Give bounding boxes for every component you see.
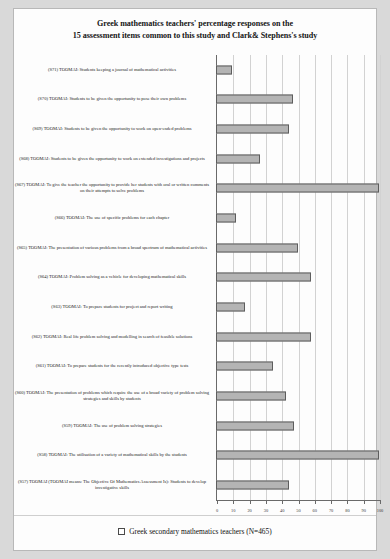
x-axis-tick <box>266 500 267 504</box>
bar <box>216 451 379 460</box>
x-axis-tick-label: 10 <box>231 508 235 513</box>
bar-cell <box>214 352 378 382</box>
bar-row: (S60) TOOMAI: The presentation of proble… <box>14 381 378 411</box>
bar-row: (S69) TOOMAI: Students to be given the o… <box>14 114 378 144</box>
bar <box>216 273 311 282</box>
x-axis-tick <box>364 500 365 504</box>
bar-cell <box>214 263 378 293</box>
bar <box>216 243 298 252</box>
category-label: (S66) TOOMAI: The use of specific proble… <box>14 215 214 222</box>
category-label: (S60) TOOMAI: The presentation of proble… <box>14 390 214 403</box>
legend-label: Greek secondary mathematics teachers (N=… <box>129 527 271 536</box>
x-axis-tick-label: 100 <box>377 508 384 513</box>
x-axis-tick-label: 0 <box>216 508 218 513</box>
bar-cell <box>214 233 378 263</box>
bar-row: (S63) TOOMAI: To prepare students for pr… <box>14 292 378 322</box>
x-axis-tick <box>380 500 381 504</box>
category-label: (S59) TOOMAI: The use of problem solving… <box>14 423 214 430</box>
bar <box>216 184 379 193</box>
category-label: (S61) TOOMAI: To prepare students for th… <box>14 363 214 370</box>
x-axis-tick-label: 70 <box>329 508 333 513</box>
x-axis-tick-label: 90 <box>361 508 365 513</box>
bar <box>216 214 236 223</box>
gridline <box>380 55 381 500</box>
bar-row: (S57) TOOMAI (TOOMAI means: The Objectiv… <box>14 470 378 500</box>
x-axis-tick <box>299 500 300 504</box>
bar-row: (S61) TOOMAI: To prepare students for th… <box>14 352 378 382</box>
bar-row: (S58) TOOMAI: The utilisation of a varie… <box>14 441 378 471</box>
chart-title-line-2: 15 assessment items common to this study… <box>32 30 358 42</box>
bar <box>216 481 289 490</box>
x-axis-tick-label: 80 <box>345 508 349 513</box>
bar-row: (S71) TOOMAI: Students keeping a journal… <box>14 55 378 85</box>
bar-cell <box>214 441 378 471</box>
bar-cell <box>214 322 378 352</box>
bar <box>216 362 273 371</box>
legend-swatch-icon <box>118 528 125 535</box>
bar <box>216 65 232 74</box>
bar-row: (S65) TOOMAI: The presentation of variou… <box>14 233 378 263</box>
chart-legend: Greek secondary mathematics teachers (N=… <box>14 515 376 536</box>
bar-row: (S66) TOOMAI: The use of specific proble… <box>14 203 378 233</box>
x-axis-tick <box>250 500 251 504</box>
bar-row: (S68) TOOMAI: Students to be given the o… <box>14 144 378 174</box>
category-label: (S71) TOOMAI: Students keeping a journal… <box>14 67 214 74</box>
bar-row: (S59) TOOMAI: The use of problem solving… <box>14 411 378 441</box>
chart-figure: Greek mathematics teachers' percentage r… <box>13 8 377 551</box>
category-label: (S57) TOOMAI (TOOMAI means: The Objectiv… <box>14 479 214 492</box>
category-label: (S62) TOOMAI: Real life problem solving … <box>14 334 214 341</box>
bar <box>216 392 286 401</box>
x-axis-tick-label: 30 <box>264 508 268 513</box>
bar-cell <box>214 411 378 441</box>
bar <box>216 154 260 163</box>
category-label: (S63) TOOMAI: To prepare students for pr… <box>14 304 214 311</box>
bar-cell <box>214 203 378 233</box>
x-axis-tick <box>331 500 332 504</box>
category-label: (S70) TOOMAI: Students to be given the o… <box>14 96 214 103</box>
x-axis-tick <box>315 500 316 504</box>
bar-row: (S62) TOOMAI: Real life problem solving … <box>14 322 378 352</box>
category-label: (S68) TOOMAI: Students to be given the o… <box>14 156 214 163</box>
chart-title: Greek mathematics teachers' percentage r… <box>14 9 376 41</box>
bar-cell <box>214 85 378 115</box>
category-label: (S65) TOOMAI: The presentation of variou… <box>14 245 214 252</box>
x-axis-tick-label: 40 <box>280 508 284 513</box>
bar <box>216 95 293 104</box>
bar-row: (S70) TOOMAI: Students to be given the o… <box>14 85 378 115</box>
bar-cell <box>214 470 378 500</box>
bar-row: (S67) TOOMAI: To give the teacher the op… <box>14 174 378 204</box>
bar <box>216 303 245 312</box>
bar-cell <box>214 55 378 85</box>
x-axis-tick-label: 60 <box>313 508 317 513</box>
category-label: (S64) TOOMAI: Problem solving as a vehic… <box>14 274 214 281</box>
bar <box>216 332 311 341</box>
x-axis-tick <box>233 500 234 504</box>
x-axis-tick <box>282 500 283 504</box>
bar-cell <box>214 114 378 144</box>
bar <box>216 125 289 134</box>
category-label: (S67) TOOMAI: To give the teacher the op… <box>14 182 214 195</box>
bar-cell <box>214 174 378 204</box>
bar-cell <box>214 144 378 174</box>
plot-area: 0102030405060708090100 (S71) TOOMAI: Stu… <box>14 55 378 513</box>
bar-cell <box>214 292 378 322</box>
chart-title-line-1: Greek mathematics teachers' percentage r… <box>32 18 358 30</box>
bar-row: (S64) TOOMAI: Problem solving as a vehic… <box>14 263 378 293</box>
bar-cell <box>214 381 378 411</box>
x-axis-tick-label: 50 <box>296 508 300 513</box>
x-axis-tick <box>217 500 218 504</box>
category-label: (S69) TOOMAI: Students to be given the o… <box>14 126 214 133</box>
bar <box>216 421 294 430</box>
x-axis-tick-label: 20 <box>247 508 251 513</box>
x-axis-tick <box>347 500 348 504</box>
category-label: (S58) TOOMAI: The utilisation of a varie… <box>14 452 214 459</box>
